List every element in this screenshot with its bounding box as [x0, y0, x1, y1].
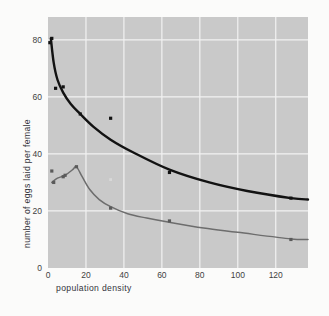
data-point: [62, 85, 65, 88]
data-point: [52, 181, 55, 184]
chart-svg: 020406080100120 020406080 population den…: [0, 0, 329, 316]
x-tick-label: 0: [46, 270, 51, 280]
data-point: [48, 41, 51, 44]
plot-panel-background: [48, 17, 308, 268]
y-tick-label: 0: [37, 263, 42, 273]
data-point: [75, 165, 78, 168]
data-point: [63, 174, 66, 177]
data-point: [168, 171, 171, 174]
chart-figure: 020406080100120 020406080 population den…: [0, 0, 329, 316]
x-tick-label: 60: [157, 270, 167, 280]
y-tick-label: 80: [33, 35, 43, 45]
x-axis-title: population density: [56, 283, 132, 293]
data-point: [79, 112, 82, 115]
data-point: [289, 197, 292, 200]
x-tick-label: 20: [81, 270, 91, 280]
faint-speck: [109, 178, 112, 181]
x-tick-label: 120: [269, 270, 283, 280]
data-point: [109, 207, 112, 210]
data-point: [168, 219, 171, 222]
y-tick-label: 60: [33, 92, 43, 102]
data-point: [50, 37, 53, 40]
data-point: [289, 238, 292, 241]
y-axis-title: number of eggs laid per female: [22, 119, 32, 248]
data-point: [50, 169, 53, 172]
y-tick-label: 40: [33, 149, 43, 159]
x-tick-label: 80: [195, 270, 205, 280]
stray-points: [109, 178, 112, 181]
data-point: [54, 87, 57, 90]
x-tick-label: 100: [231, 270, 245, 280]
y-tick-label: 20: [33, 206, 43, 216]
data-point: [109, 117, 112, 120]
x-tick-label: 40: [119, 270, 129, 280]
